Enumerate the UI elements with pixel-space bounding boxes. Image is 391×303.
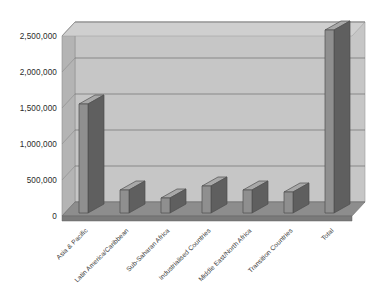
plot-left-wall bbox=[62, 22, 75, 216]
bar-total[interactable] bbox=[325, 21, 350, 213]
plot-top-ledge bbox=[62, 22, 365, 36]
bar-chart-3d: 0 500,000 1,000,000 1,500,000 2,000,000 … bbox=[0, 0, 391, 303]
y-tick-label: 2,500,000 bbox=[20, 32, 58, 41]
y-tick-label: 1,000,000 bbox=[20, 140, 58, 149]
y-axis-labels: 0 500,000 1,000,000 1,500,000 2,000,000 … bbox=[20, 32, 58, 221]
x-tick-label-sub-saharan-africa: Sub-Saharan Africa bbox=[125, 227, 171, 273]
y-tick-label: 2,000,000 bbox=[20, 68, 58, 77]
y-tick-label: 1,500,000 bbox=[20, 104, 58, 113]
x-tick-label-asia-pacific: Asia & Pacific bbox=[55, 226, 89, 260]
y-tick-label: 0 bbox=[52, 212, 57, 221]
x-tick-label-transition-countries: Transition Countries bbox=[246, 226, 294, 274]
plot-back-wall bbox=[75, 22, 365, 202]
x-axis-labels: Asia & Pacific Latin America/Caribbean S… bbox=[55, 226, 335, 283]
bar-asia-pacific[interactable] bbox=[79, 95, 104, 213]
y-tick-label: 500,000 bbox=[27, 176, 58, 185]
chart-container: 0 500,000 1,000,000 1,500,000 2,000,000 … bbox=[0, 0, 391, 303]
plot-floor-front-edge bbox=[62, 216, 352, 221]
x-tick-label-total: Total bbox=[320, 226, 335, 241]
